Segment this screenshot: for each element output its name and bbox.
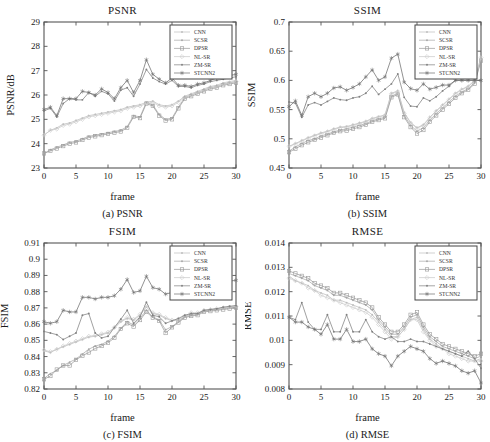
svg-text:0.83: 0.83 bbox=[24, 368, 40, 378]
svg-text:10: 10 bbox=[104, 392, 114, 402]
svg-text:27: 27 bbox=[31, 66, 41, 76]
svg-text:15: 15 bbox=[136, 171, 146, 181]
plot-canvas-fsim: 0510152025300.820.830.840.850.860.870.88… bbox=[0, 221, 245, 442]
svg-text:24: 24 bbox=[31, 139, 41, 149]
svg-text:ZM-SR: ZM-SR bbox=[194, 62, 211, 68]
svg-text:DPSR: DPSR bbox=[439, 266, 453, 272]
svg-text:25: 25 bbox=[200, 171, 210, 181]
svg-text:NL-SR: NL-SR bbox=[194, 54, 210, 60]
svg-text:0.88: 0.88 bbox=[24, 287, 40, 297]
svg-text:30: 30 bbox=[232, 392, 242, 402]
svg-text:0.55: 0.55 bbox=[269, 105, 285, 115]
svg-text:5: 5 bbox=[74, 171, 79, 181]
svg-text:0.011: 0.011 bbox=[265, 311, 285, 321]
x-axis-label-rmse: frame bbox=[245, 412, 490, 423]
subplot-caption-rmse: (d) RMSE bbox=[245, 429, 490, 440]
svg-text:0.87: 0.87 bbox=[24, 303, 40, 313]
svg-text:15: 15 bbox=[381, 392, 391, 402]
subplot-ssim: SSIM 0510152025300.450.50.550.60.650.7SS… bbox=[245, 0, 490, 221]
subplot-psnr: PSNR 05101520253023242526272829PSNR/dBCN… bbox=[0, 0, 245, 221]
svg-text:0.9: 0.9 bbox=[29, 254, 41, 264]
plot-canvas-rmse: 0510152025300.0080.0090.010.0110.0120.01… bbox=[245, 221, 490, 442]
svg-text:ZM-SR: ZM-SR bbox=[439, 283, 456, 289]
svg-text:0.014: 0.014 bbox=[265, 238, 286, 248]
subplot-rmse: RMSE 0510152025300.0080.0090.010.0110.01… bbox=[245, 221, 490, 442]
svg-text:FSIM: FSIM bbox=[0, 303, 10, 328]
svg-text:RMSE: RMSE bbox=[245, 302, 253, 331]
svg-text:0.5: 0.5 bbox=[274, 134, 286, 144]
svg-text:5: 5 bbox=[319, 171, 324, 181]
svg-text:0.7: 0.7 bbox=[274, 17, 286, 27]
svg-text:0.01: 0.01 bbox=[269, 335, 285, 345]
svg-text:15: 15 bbox=[136, 392, 146, 402]
svg-text:STCNN2: STCNN2 bbox=[439, 70, 460, 76]
svg-text:SCSR: SCSR bbox=[439, 37, 453, 43]
svg-text:20: 20 bbox=[413, 392, 423, 402]
svg-text:30: 30 bbox=[477, 171, 487, 181]
svg-text:SCSR: SCSR bbox=[194, 258, 208, 264]
plot-canvas-ssim: 0510152025300.450.50.550.60.650.7SSIMCNN… bbox=[245, 0, 490, 221]
svg-text:20: 20 bbox=[168, 171, 178, 181]
svg-text:30: 30 bbox=[477, 392, 487, 402]
svg-text:SCSR: SCSR bbox=[439, 258, 453, 264]
subplot-caption-psnr: (a) PSNR bbox=[0, 208, 245, 219]
svg-text:CNN: CNN bbox=[439, 29, 451, 35]
svg-text:0.89: 0.89 bbox=[24, 270, 40, 280]
svg-text:0.86: 0.86 bbox=[24, 319, 40, 329]
svg-text:ZM-SR: ZM-SR bbox=[439, 62, 456, 68]
svg-text:10: 10 bbox=[349, 171, 359, 181]
svg-text:23: 23 bbox=[31, 163, 41, 173]
svg-text:20: 20 bbox=[168, 392, 178, 402]
svg-text:15: 15 bbox=[381, 171, 391, 181]
svg-text:30: 30 bbox=[232, 171, 242, 181]
svg-text:0.82: 0.82 bbox=[24, 384, 40, 394]
svg-text:NL-SR: NL-SR bbox=[439, 275, 455, 281]
svg-text:NL-SR: NL-SR bbox=[194, 275, 210, 281]
x-axis-label-psnr: frame bbox=[0, 191, 245, 202]
svg-text:0.85: 0.85 bbox=[24, 335, 40, 345]
svg-text:0.65: 0.65 bbox=[269, 46, 285, 56]
svg-text:0.012: 0.012 bbox=[265, 287, 285, 297]
subplot-caption-ssim: (b) SSIM bbox=[245, 208, 490, 219]
svg-text:SSIM: SSIM bbox=[246, 82, 257, 107]
x-axis-label-fsim: frame bbox=[0, 412, 245, 423]
svg-text:SCSR: SCSR bbox=[194, 37, 208, 43]
svg-text:0.84: 0.84 bbox=[24, 352, 40, 362]
svg-text:26: 26 bbox=[31, 90, 41, 100]
svg-text:0: 0 bbox=[287, 392, 292, 402]
svg-text:NL-SR: NL-SR bbox=[439, 54, 455, 60]
svg-text:5: 5 bbox=[319, 392, 324, 402]
svg-text:28: 28 bbox=[31, 41, 41, 51]
svg-text:25: 25 bbox=[200, 392, 210, 402]
svg-text:CNN: CNN bbox=[439, 250, 451, 256]
svg-text:0.013: 0.013 bbox=[265, 262, 286, 272]
svg-text:ZM-SR: ZM-SR bbox=[194, 283, 211, 289]
svg-text:0.6: 0.6 bbox=[274, 75, 286, 85]
svg-text:STCNN2: STCNN2 bbox=[439, 291, 460, 297]
svg-text:10: 10 bbox=[104, 171, 114, 181]
svg-text:DPSR: DPSR bbox=[194, 266, 208, 272]
svg-text:PSNR/dB: PSNR/dB bbox=[5, 74, 16, 115]
svg-text:CNN: CNN bbox=[194, 29, 206, 35]
svg-text:10: 10 bbox=[349, 392, 359, 402]
svg-text:0.45: 0.45 bbox=[269, 163, 285, 173]
svg-text:STCNN2: STCNN2 bbox=[194, 70, 215, 76]
svg-text:CNN: CNN bbox=[194, 250, 206, 256]
svg-text:DPSR: DPSR bbox=[194, 45, 208, 51]
svg-text:29: 29 bbox=[31, 17, 41, 27]
subplot-caption-fsim: (c) FSIM bbox=[0, 429, 245, 440]
svg-text:5: 5 bbox=[74, 392, 79, 402]
svg-text:STCNN2: STCNN2 bbox=[194, 291, 215, 297]
svg-text:0.009: 0.009 bbox=[265, 360, 286, 370]
svg-text:25: 25 bbox=[445, 392, 455, 402]
x-axis-label-ssim: frame bbox=[245, 191, 490, 202]
svg-text:0: 0 bbox=[287, 171, 292, 181]
plot-canvas-psnr: 05101520253023242526272829PSNR/dBCNNSCSR… bbox=[0, 0, 245, 221]
svg-text:0: 0 bbox=[42, 171, 47, 181]
subplot-fsim: FSIM 0510152025300.820.830.840.850.860.8… bbox=[0, 221, 245, 442]
svg-text:20: 20 bbox=[413, 171, 423, 181]
svg-text:0.91: 0.91 bbox=[24, 238, 40, 248]
svg-text:0: 0 bbox=[42, 392, 47, 402]
figure-panel-grid: PSNR 05101520253023242526272829PSNR/dBCN… bbox=[0, 0, 490, 442]
svg-text:DPSR: DPSR bbox=[439, 45, 453, 51]
